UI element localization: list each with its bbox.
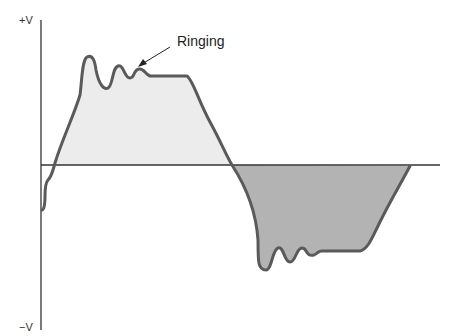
waveform-diagram <box>0 0 455 336</box>
ringing-arrow-line <box>142 47 170 64</box>
ringing-arrow-head <box>138 59 147 67</box>
ringing-annotation: Ringing <box>177 33 224 49</box>
plus-v-label: +V <box>19 14 33 26</box>
minus-v-label: −V <box>19 321 33 333</box>
